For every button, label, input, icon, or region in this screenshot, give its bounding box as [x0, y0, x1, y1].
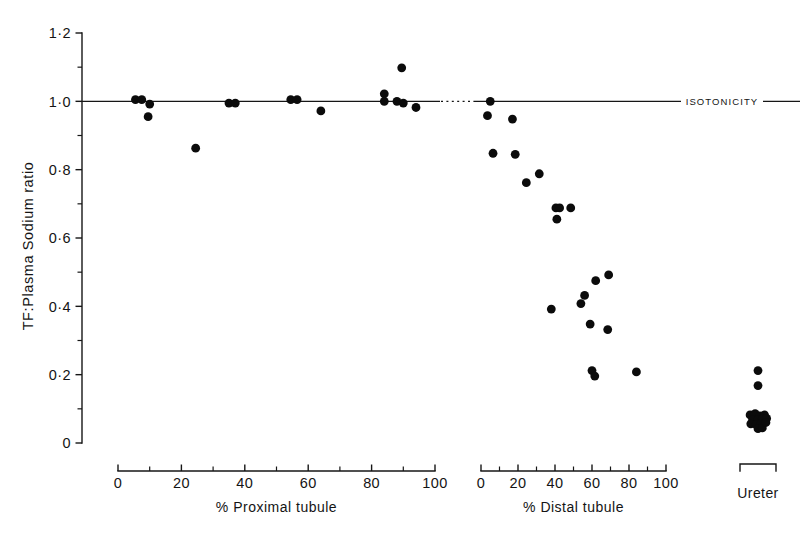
proximal-tick-label: 40 [236, 475, 253, 491]
y-axis-ticks [76, 33, 83, 443]
distal-tick-label: 100 [653, 475, 678, 491]
proximal-x-axis-tick-labels: 020406080100 [114, 475, 448, 491]
data-point [483, 111, 492, 120]
proximal-tick-label: 20 [173, 475, 190, 491]
data-point [486, 97, 495, 106]
data-point [762, 418, 771, 427]
proximal-tick-label: 80 [363, 475, 380, 491]
y-axis-group: 00·20·40·60·81·01·2 [49, 25, 82, 451]
isotonicity-label: ISOTONICITY [686, 96, 759, 107]
data-point [293, 95, 302, 104]
y-axis-title-group: TF:Plasma Sodium ratio [20, 162, 36, 331]
data-point [535, 169, 544, 178]
distal-tick-label: 80 [621, 475, 638, 491]
ureter-panel-group: Ureter [737, 366, 778, 501]
proximal-x-axis-ticks [118, 465, 435, 472]
data-point [632, 368, 641, 377]
ureter-label: Ureter [737, 485, 778, 501]
data-point [754, 381, 763, 390]
data-point [590, 372, 599, 381]
data-point [566, 204, 575, 213]
data-point [603, 325, 612, 334]
data-point [191, 144, 200, 153]
distal-panel-group: 020406080100 % Distal tubule [477, 97, 679, 515]
figure-container: 00·20·40·60·81·01·2 TF:Plasma Sodium rat… [0, 0, 805, 539]
data-point [489, 149, 498, 158]
data-point [144, 112, 153, 121]
scatter-plot: 00·20·40·60·81·01·2 TF:Plasma Sodium rat… [0, 0, 805, 539]
data-point [508, 115, 517, 124]
y-tick-label: 0·8 [49, 162, 71, 178]
y-tick-label: 0·2 [49, 367, 71, 383]
data-point [591, 276, 600, 285]
y-tick-label: 0 [63, 435, 71, 451]
proximal-panel-group: 020406080100 % Proximal tubule [114, 63, 448, 515]
proximal-tick-label: 60 [300, 475, 317, 491]
data-point [397, 63, 406, 72]
y-axis-title: TF:Plasma Sodium ratio [20, 162, 36, 331]
data-point [586, 320, 595, 329]
data-point [511, 150, 520, 159]
data-point [380, 97, 389, 106]
data-point [412, 103, 421, 112]
distal-x-axis-tick-labels: 020406080100 [477, 475, 679, 491]
proximal-x-axis-title: % Proximal tubule [216, 499, 337, 515]
distal-tick-label: 60 [584, 475, 601, 491]
data-point [522, 178, 531, 187]
distal-tick-label: 0 [477, 475, 485, 491]
data-point [580, 291, 589, 300]
data-point [754, 366, 763, 375]
y-tick-label: 1·2 [49, 25, 71, 41]
data-point [231, 99, 240, 108]
data-point [547, 305, 556, 314]
y-tick-label: 1·0 [49, 94, 71, 110]
data-point [555, 204, 564, 213]
proximal-tick-label: 0 [114, 475, 122, 491]
isotonicity-group: ISOTONICITY [82, 96, 800, 107]
data-point [316, 107, 325, 116]
distal-tick-label: 20 [510, 475, 527, 491]
ureter-data-points [746, 366, 771, 433]
data-point [145, 100, 154, 109]
data-point [552, 215, 561, 224]
y-axis-tick-labels: 00·20·40·60·81·01·2 [49, 25, 71, 451]
proximal-tick-label: 100 [422, 475, 447, 491]
y-tick-label: 0·6 [49, 230, 71, 246]
data-point [137, 95, 146, 104]
ureter-bracket [740, 464, 776, 471]
data-point [604, 271, 613, 280]
distal-x-axis-title: % Distal tubule [523, 499, 624, 515]
data-point [380, 89, 389, 98]
distal-data-points [483, 97, 641, 381]
distal-tick-label: 40 [547, 475, 564, 491]
distal-x-axis-ticks [481, 465, 666, 472]
data-point [399, 99, 408, 108]
data-point [577, 299, 586, 308]
proximal-data-points [131, 63, 420, 152]
y-tick-label: 0·4 [49, 299, 71, 315]
